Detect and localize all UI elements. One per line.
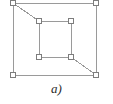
graph-node [11,73,16,78]
figure-caption: a) [0,81,113,97]
graph-node [69,19,74,24]
node-layer [11,1,99,78]
graph-node [94,73,99,78]
figure-container: a) [0,0,113,104]
graph-node [11,1,16,6]
graph-node [69,55,74,60]
graph-node [94,1,99,6]
edge-layer [13,3,96,75]
graph-node [37,55,42,60]
graph-node [37,19,42,24]
graph-edge [71,57,96,75]
graph-edge [13,3,39,21]
